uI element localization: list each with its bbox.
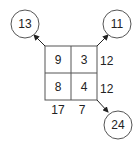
cell-r1-c1: 4 xyxy=(81,80,88,94)
cell-r0-c0: 9 xyxy=(55,53,62,67)
magic-square-diagram: 9 3 8 4 12 12 17 7 13 11 24 xyxy=(0,0,140,144)
col-sum-0: 17 xyxy=(51,103,65,117)
col-sum-1: 7 xyxy=(79,103,86,117)
circle-top-right-value: 11 xyxy=(111,17,124,31)
arrow-bottom-right xyxy=(97,100,108,112)
grid xyxy=(45,46,97,100)
circle-bottom-right-value: 24 xyxy=(111,118,125,132)
row-sum-0: 12 xyxy=(100,54,114,68)
cell-r0-c1: 3 xyxy=(81,53,88,67)
cell-r1-c0: 8 xyxy=(55,80,62,94)
arrow-top-left xyxy=(34,35,45,46)
row-sum-1: 12 xyxy=(100,82,114,96)
circle-top-left-value: 13 xyxy=(18,17,32,31)
arrow-top-right xyxy=(97,35,108,46)
